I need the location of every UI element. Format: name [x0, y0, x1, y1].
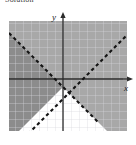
x-axis-label: x	[123, 83, 128, 93]
grid-lines	[9, 21, 127, 131]
y-axis-label: y	[51, 12, 56, 22]
inequality-graph-figure: x y	[0, 0, 136, 145]
y-axis-arrowhead	[60, 12, 65, 18]
x-axis-arrowhead	[127, 76, 133, 81]
